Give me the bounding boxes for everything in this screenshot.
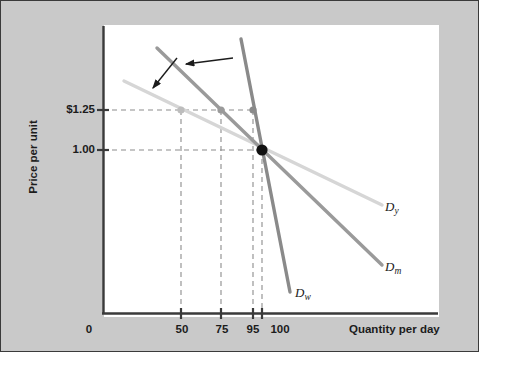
- arrow-to-dy-icon: [153, 58, 177, 88]
- curve-dw: [241, 39, 290, 292]
- figure-root: Price per unit $1.25 1.00 0 50 75 95 100…: [0, 0, 505, 370]
- chart-graphics: [0, 0, 505, 370]
- arrow-to-dm-icon: [186, 58, 233, 64]
- marker-dw-95: [249, 106, 256, 113]
- marker-dm-75: [217, 106, 224, 113]
- marker-equilibrium-100: [256, 144, 267, 155]
- curve-dm: [157, 48, 382, 265]
- dashed-guides: [103, 110, 262, 313]
- marker-dy-50: [177, 106, 184, 113]
